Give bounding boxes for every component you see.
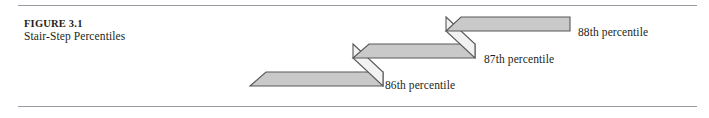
figure-container: FIGURE 3.1 Stair-Step Percentiles 86th p…	[0, 0, 709, 118]
bottom-divider-rule	[18, 106, 697, 107]
step-label-86th: 86th percentile	[385, 79, 455, 91]
step-label-87th: 87th percentile	[484, 53, 554, 65]
step-tread-2	[353, 44, 475, 58]
step-label-88th: 88th percentile	[578, 26, 648, 38]
stair-step-diagram	[0, 0, 709, 118]
step-tread-3	[446, 17, 570, 31]
step-tread-1	[250, 72, 383, 86]
